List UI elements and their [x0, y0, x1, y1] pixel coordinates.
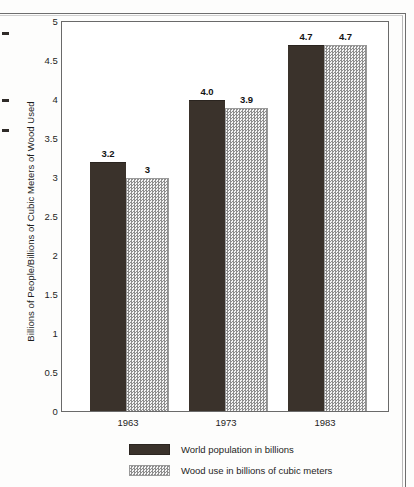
y-axis-tick-label: 2 [24, 251, 58, 260]
legend-swatch-wooduse-icon [129, 465, 170, 476]
x-axis-tick-label-1963: 1963 [93, 418, 163, 428]
y-axis-tick-label: 3.5 [24, 134, 58, 143]
y-axis-tick-label: 1 [24, 329, 58, 338]
y-axis-tick-label: 5 [24, 17, 58, 26]
y-axis-tick-labels: 5 4.5 4 3.5 3 2.5 2 1.5 1 0.5 0 [18, 0, 58, 487]
y-axis-tick-label: 0 [24, 407, 58, 416]
legend-item-population[interactable]: World population in billions [129, 441, 389, 458]
bar-population-1983[interactable] [288, 45, 324, 411]
y-axis-tick-label: 4 [24, 95, 58, 104]
bar-value-wooduse-1983: 4.7 [324, 32, 367, 42]
legend-label-wooduse: Wood use in billions of cubic meters [181, 466, 332, 476]
bar-value-wooduse-1963: 3 [126, 165, 169, 175]
bar-population-1963[interactable] [90, 162, 126, 411]
y-axis-tick-label: 2.5 [24, 212, 58, 221]
y-axis-tick-label: 3 [24, 173, 58, 182]
legend-swatch-population-icon [129, 444, 170, 455]
legend-item-wooduse[interactable]: Wood use in billions of cubic meters [129, 462, 389, 479]
y-axis-tick-label: 1.5 [24, 290, 58, 299]
y-axis-tick-label: 4.5 [24, 56, 58, 65]
bar-value-wooduse-1973: 3.9 [225, 95, 268, 105]
bar-value-population-1963: 3.2 [90, 149, 126, 159]
bar-value-population-1973: 4.0 [189, 87, 225, 97]
x-axis-tick-label-1983: 1983 [290, 418, 360, 428]
bar-wooduse-1963[interactable] [126, 178, 169, 411]
x-axis-tick-label-1973: 1973 [191, 418, 261, 428]
bar-wooduse-1973[interactable] [225, 108, 268, 411]
chart-figure: Billions of People/Billions of Cubic Met… [0, 0, 414, 487]
legend: World population in billions Wood use in… [129, 441, 389, 483]
bar-population-1973[interactable] [189, 100, 225, 411]
legend-label-population: World population in billions [181, 445, 294, 455]
y-axis-tick-label: 0.5 [24, 368, 58, 377]
plot-area: 3.2 3 4.0 3.9 4.7 4.7 [62, 22, 388, 411]
bar-wooduse-1983[interactable] [324, 45, 367, 411]
bar-value-population-1983: 4.7 [288, 32, 324, 42]
